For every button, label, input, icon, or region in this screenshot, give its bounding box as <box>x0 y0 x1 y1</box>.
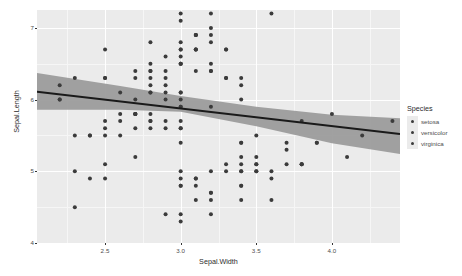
data-point <box>179 47 183 51</box>
data-point <box>179 40 183 44</box>
data-point <box>239 76 243 80</box>
data-point <box>133 112 137 116</box>
data-point <box>254 169 258 173</box>
data-point <box>239 83 243 87</box>
data-point <box>390 119 394 123</box>
data-point <box>164 55 168 59</box>
y-axis-title: Sepal.Length <box>12 72 21 152</box>
data-point <box>179 12 183 16</box>
data-point <box>209 191 213 195</box>
plot-panel <box>37 10 400 243</box>
data-point <box>239 169 243 173</box>
y-tick-label: 4 <box>30 239 34 246</box>
data-point <box>224 162 228 166</box>
data-point <box>269 198 273 202</box>
data-point <box>148 112 152 116</box>
data-point <box>179 19 183 23</box>
data-point <box>58 83 62 87</box>
legend-item-virginica[interactable]: virginica <box>407 138 462 149</box>
data-point <box>345 155 349 159</box>
data-point <box>148 83 152 87</box>
data-point <box>209 198 213 202</box>
legend-title: Species <box>407 104 462 113</box>
legend-item-label: versicolor <box>421 129 447 136</box>
data-point <box>164 212 168 216</box>
data-point <box>179 55 183 59</box>
data-point <box>315 141 319 145</box>
data-point <box>269 176 273 180</box>
data-point <box>179 176 183 180</box>
x-tick-mark <box>256 243 257 245</box>
x-tick-mark <box>105 243 106 245</box>
ggplot-scatter-chart: 4567 Sepal.Length 2.53.03.54.0 Sepal.Wid… <box>0 0 462 276</box>
data-point <box>73 205 77 209</box>
data-point <box>164 83 168 87</box>
data-point <box>103 162 107 166</box>
data-point <box>194 69 198 73</box>
data-point <box>360 133 364 137</box>
data-point <box>224 47 228 51</box>
data-point <box>194 198 198 202</box>
y-tick-mark <box>35 100 37 101</box>
data-layer <box>37 10 400 243</box>
data-point <box>103 47 107 51</box>
data-point <box>88 133 92 137</box>
data-point <box>330 112 334 116</box>
data-point <box>209 26 213 30</box>
x-axis-title: Sepal.Width <box>37 257 400 266</box>
data-point <box>209 40 213 44</box>
data-point <box>285 162 289 166</box>
data-point <box>118 90 122 94</box>
y-tick-label: 6 <box>30 96 34 103</box>
legend-item-setosa[interactable]: setosa <box>407 116 462 127</box>
x-tick-label: 2.5 <box>85 247 125 254</box>
x-tick-label: 3.5 <box>236 247 276 254</box>
data-point <box>209 212 213 216</box>
data-point <box>179 184 183 188</box>
data-point <box>194 176 198 180</box>
data-point <box>300 162 304 166</box>
data-point <box>103 126 107 130</box>
data-point <box>73 76 77 80</box>
data-point <box>118 119 122 123</box>
legend-item-label: setosa <box>421 118 439 125</box>
y-tick-mark <box>35 28 37 29</box>
data-point <box>209 12 213 16</box>
x-tick-label: 3.0 <box>161 247 201 254</box>
data-point <box>224 76 228 80</box>
data-point <box>164 90 168 94</box>
data-point <box>133 126 137 130</box>
y-axis-ticks: 4567 <box>24 10 34 243</box>
data-point <box>164 76 168 80</box>
data-point <box>254 155 258 159</box>
data-point <box>148 69 152 73</box>
data-point <box>194 33 198 37</box>
data-point <box>133 155 137 159</box>
data-point <box>179 141 183 145</box>
data-point <box>209 33 213 37</box>
data-point <box>209 105 213 109</box>
data-point <box>209 69 213 73</box>
data-point <box>103 119 107 123</box>
data-point <box>179 119 183 123</box>
legend-item-versicolor[interactable]: versicolor <box>407 127 462 138</box>
data-point <box>285 141 289 145</box>
data-point <box>254 133 258 137</box>
data-point <box>148 90 152 94</box>
data-point <box>118 133 122 137</box>
data-point <box>269 169 273 173</box>
data-point <box>239 198 243 202</box>
legend-key-point-icon <box>407 138 418 149</box>
y-tick-label: 5 <box>30 167 34 174</box>
data-point <box>239 184 243 188</box>
data-point <box>148 40 152 44</box>
data-point <box>254 162 258 166</box>
legend-item-label: virginica <box>421 140 444 147</box>
data-point <box>224 169 228 173</box>
data-point <box>103 176 107 180</box>
data-point <box>194 47 198 51</box>
data-point <box>164 69 168 73</box>
legend-key-point-icon <box>407 116 418 127</box>
x-axis-ticks: 2.53.03.54.0 <box>37 243 400 255</box>
legend: Species setosaversicolorvirginica <box>407 104 462 149</box>
